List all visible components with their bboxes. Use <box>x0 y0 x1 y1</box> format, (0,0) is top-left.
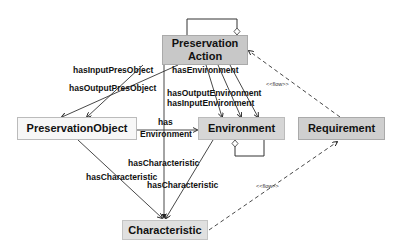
node-preservation-object: PreservationObject <box>17 117 137 140</box>
aggregation-diamond-icon <box>232 140 238 147</box>
edge-label-has-output-pres-object: hasOutputPresObject <box>69 84 156 93</box>
node-label: Environment <box>208 122 275 135</box>
node-requirement: Requirement <box>298 117 385 140</box>
node-label: PreservationObject <box>27 122 128 135</box>
pa-self-loop <box>187 19 237 35</box>
edge-label-has-input-pres-object: hasInputPresObject <box>73 66 153 75</box>
node-characteristic: Characteristic <box>122 220 208 240</box>
edge-label-flow-char-req: <<flow>> <box>256 183 279 189</box>
aggregation-diamond-icon <box>234 28 240 35</box>
node-preservation-action: Preservation Action <box>162 35 248 65</box>
edge-label-has-environment: hasEnvironment <box>172 66 239 75</box>
edge-label-env-has-characteristic: hasCharacteristic <box>128 159 199 168</box>
edge-label-has-output-environment: hasOutputEnvironment <box>167 89 261 98</box>
edge-label-flow-req-pa: <<flow>> <box>266 81 289 87</box>
node-environment: Environment <box>198 117 285 140</box>
node-label: Requirement <box>308 122 375 135</box>
edge-label-pa-has-characteristic: hasCharacteristic <box>147 181 218 190</box>
edge-label-has-input-environment: hasInputEnvironment <box>167 99 254 108</box>
node-label-line2: Action <box>188 50 222 63</box>
edge-label-po-has-environment-1: has <box>158 118 173 127</box>
node-label: Characteristic <box>128 224 201 237</box>
edge-label-po-has-environment-2: Environment <box>140 130 192 139</box>
node-label-line1: Preservation <box>172 37 239 50</box>
